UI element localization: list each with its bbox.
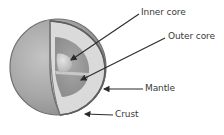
arrow-crust (85, 114, 113, 115)
label-inner-core: Inner core (141, 8, 186, 17)
label-crust: Crust (115, 110, 138, 119)
label-outer-core: Outer core (168, 32, 215, 41)
earth-layers-diagram (0, 0, 224, 135)
cutaway-section (50, 21, 105, 115)
label-mantle: Mantle (145, 84, 175, 93)
